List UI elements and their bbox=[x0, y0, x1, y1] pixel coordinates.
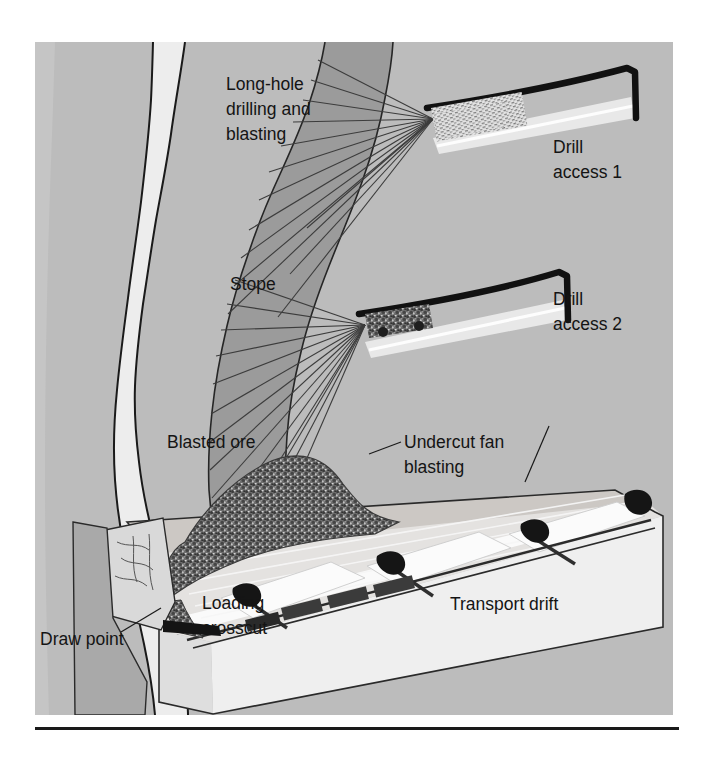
diagram-canvas: Long-hole drilling and blasting Drill ac… bbox=[35, 42, 673, 715]
label-stope: Stope bbox=[230, 274, 276, 294]
block-left-face bbox=[159, 630, 213, 714]
lhd-wheel-rear bbox=[378, 327, 388, 337]
bottom-rule-divider bbox=[35, 727, 679, 730]
lhd-wheel-front bbox=[414, 321, 424, 331]
figure-page: Long-hole drilling and blasting Drill ac… bbox=[0, 0, 706, 763]
label-draw-point: Draw point bbox=[40, 629, 124, 649]
label-transport-drift: Transport drift bbox=[450, 594, 558, 614]
mining-method-diagram: Long-hole drilling and blasting Drill ac… bbox=[35, 42, 673, 715]
label-blasted-ore: Blasted ore bbox=[167, 432, 256, 452]
draw-point-rock-face bbox=[105, 518, 175, 630]
